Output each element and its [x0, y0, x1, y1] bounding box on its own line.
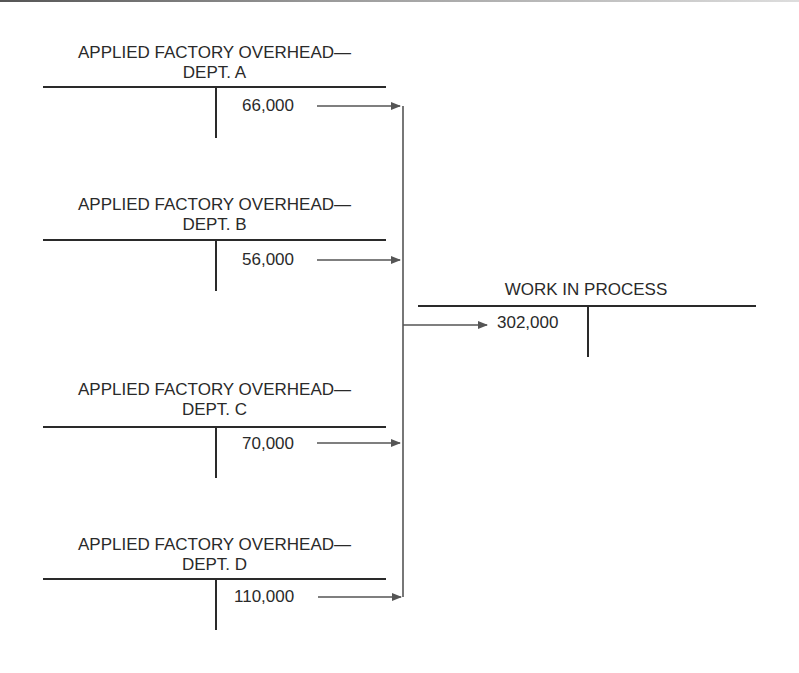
flow-connectors [0, 0, 799, 673]
